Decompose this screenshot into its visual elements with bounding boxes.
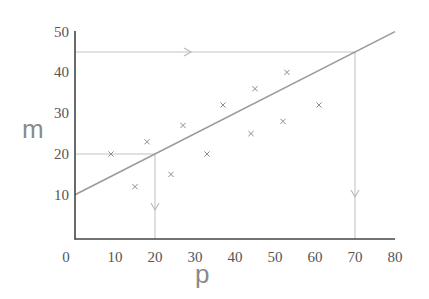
data-point <box>132 184 137 189</box>
x-tick-label: 20 <box>148 249 163 265</box>
y-axis-label: m <box>22 114 44 144</box>
data-point <box>168 172 173 177</box>
data-point <box>180 123 185 128</box>
x-tick-label: 0 <box>62 249 70 265</box>
y-tick-label: 10 <box>54 187 69 203</box>
x-tick-label: 60 <box>308 249 323 265</box>
data-point <box>284 70 289 75</box>
x-axis-label: p <box>195 259 209 289</box>
x-tick-label: 10 <box>108 249 123 265</box>
data-point <box>204 151 209 156</box>
data-point <box>220 102 225 107</box>
scatter-chart: 01020304050607080 1020304050 m p <box>0 0 429 299</box>
y-tick-label: 30 <box>54 105 69 121</box>
axes <box>75 31 396 240</box>
regression-line <box>75 32 395 195</box>
data-points <box>108 70 321 189</box>
y-tick-label: 50 <box>54 24 69 40</box>
x-tick-label: 50 <box>268 249 283 265</box>
data-point <box>248 131 253 136</box>
y-tick-label: 20 <box>54 146 69 162</box>
data-point <box>316 102 321 107</box>
y-tick-labels: 1020304050 <box>54 24 69 203</box>
best-fit-line <box>75 32 395 195</box>
data-point <box>252 86 257 91</box>
x-tick-label: 80 <box>388 249 403 265</box>
guide-lines <box>76 48 359 239</box>
x-tick-label: 40 <box>228 249 243 265</box>
x-tick-labels: 01020304050607080 <box>62 249 402 265</box>
x-tick-label: 70 <box>348 249 363 265</box>
y-tick-label: 40 <box>54 64 69 80</box>
data-point <box>280 119 285 124</box>
data-point <box>144 139 149 144</box>
